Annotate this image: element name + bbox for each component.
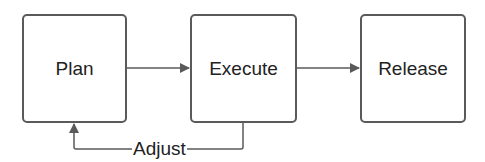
node-release[interactable]: Release [360, 14, 466, 123]
edge-label-adjust: Adjust [132, 139, 187, 159]
node-plan-label: Plan [55, 58, 93, 80]
node-execute[interactable]: Execute [190, 14, 297, 123]
node-execute-label: Execute [209, 58, 278, 80]
node-plan[interactable]: Plan [22, 14, 127, 123]
node-release-label: Release [378, 58, 448, 80]
